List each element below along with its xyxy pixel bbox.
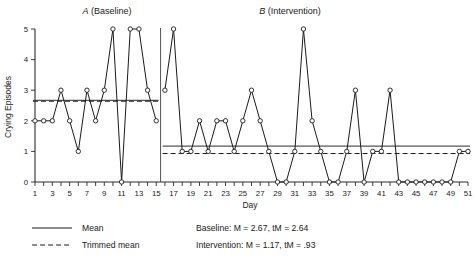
x-tick-label: 39 — [360, 189, 369, 198]
x-tick-label: 9 — [102, 189, 106, 198]
data-point — [414, 180, 418, 184]
x-tick-label: 47 — [429, 189, 438, 198]
series-line-b — [165, 29, 468, 182]
data-point — [397, 180, 401, 184]
data-point — [154, 119, 158, 123]
x-tick-label: 11 — [118, 189, 126, 198]
x-tick-label: 25 — [238, 189, 247, 198]
data-point — [371, 149, 375, 153]
x-axis-label: Day — [242, 200, 258, 210]
y-tick-label: 4 — [24, 55, 29, 64]
data-point — [180, 149, 184, 153]
x-tick-label: 17 — [169, 189, 178, 198]
data-point — [293, 149, 297, 153]
x-tick-label: 3 — [50, 189, 54, 198]
data-point — [128, 27, 132, 31]
data-point — [197, 119, 201, 123]
data-point — [189, 149, 193, 153]
y-tick-label: 2 — [24, 117, 28, 126]
data-point — [319, 149, 323, 153]
x-tick-label: 35 — [325, 189, 334, 198]
data-point — [431, 180, 435, 184]
legend-label-mean: Mean — [82, 223, 104, 233]
x-tick-label: 41 — [377, 189, 386, 198]
data-point — [440, 180, 444, 184]
x-tick-label: 7 — [85, 189, 89, 198]
data-point — [76, 149, 80, 153]
data-point — [163, 88, 167, 92]
data-point — [119, 180, 123, 184]
legend-label-trimmed-mean: Trimmed mean — [82, 240, 140, 250]
data-series — [33, 27, 470, 184]
data-point — [301, 27, 305, 31]
baseline-stats-text: Baseline: M = 2.67, tM = 2.64 — [196, 223, 308, 233]
data-point — [310, 119, 314, 123]
x-tick-label: 37 — [342, 189, 351, 198]
x-tick-label: 1 — [33, 189, 37, 198]
data-point — [258, 119, 262, 123]
data-point — [388, 88, 392, 92]
x-tick-label: 29 — [273, 189, 282, 198]
data-point — [171, 27, 175, 31]
data-point — [241, 119, 245, 123]
data-point — [33, 119, 37, 123]
data-point — [345, 149, 349, 153]
data-point — [59, 88, 63, 92]
y-axis-ticks: 012345 — [24, 25, 35, 187]
data-point — [145, 88, 149, 92]
data-point — [423, 180, 427, 184]
x-tick-label: 45 — [412, 189, 421, 198]
data-point — [41, 119, 45, 123]
data-point — [362, 180, 366, 184]
x-tick-label: 13 — [135, 189, 144, 198]
x-tick-label: 23 — [221, 189, 230, 198]
data-point — [85, 88, 89, 92]
y-tick-label: 5 — [24, 25, 29, 34]
x-tick-label: 15 — [152, 189, 161, 198]
y-tick-label: 3 — [24, 86, 28, 95]
data-point — [102, 88, 106, 92]
x-tick-label: 19 — [187, 189, 196, 198]
data-point — [353, 88, 357, 92]
data-point — [284, 180, 288, 184]
data-point — [111, 27, 115, 31]
data-point — [93, 119, 97, 123]
intervention-stats-text: Intervention: M = 1.17, tM = .93 — [196, 240, 316, 250]
data-point — [267, 149, 271, 153]
x-tick-label: 33 — [308, 189, 317, 198]
data-point — [50, 119, 54, 123]
data-point — [215, 119, 219, 123]
data-point — [457, 149, 461, 153]
crying-episodes-ab-design-chart: A (Baseline) B (Intervention) Crying Epi… — [0, 0, 475, 261]
data-point — [405, 180, 409, 184]
data-point — [67, 119, 71, 123]
data-point — [275, 180, 279, 184]
x-tick-label: 27 — [256, 189, 265, 198]
x-tick-label: 49 — [446, 189, 455, 198]
data-point — [206, 149, 210, 153]
data-point — [379, 149, 383, 153]
reference-lines — [33, 100, 470, 153]
data-point — [223, 119, 227, 123]
y-axis-label: Crying Episodes — [3, 76, 13, 138]
phase-title-baseline: A (Baseline) — [81, 6, 131, 16]
x-tick-label: 21 — [204, 189, 213, 198]
data-point — [232, 149, 236, 153]
phase-title-intervention: B (Intervention) — [259, 6, 321, 16]
legend: Mean Trimmed mean — [32, 223, 140, 250]
data-point — [466, 149, 470, 153]
data-point — [448, 180, 452, 184]
series-line-a — [35, 29, 156, 182]
statistics-annotations: Baseline: M = 2.67, tM = 2.64 Interventi… — [196, 223, 316, 250]
data-point — [327, 180, 331, 184]
data-point — [336, 180, 340, 184]
x-tick-label: 51 — [464, 189, 473, 198]
data-point — [249, 88, 253, 92]
data-point — [137, 27, 141, 31]
y-tick-label: 1 — [24, 147, 28, 156]
y-tick-label: 0 — [24, 178, 29, 187]
x-tick-label: 5 — [67, 189, 72, 198]
x-tick-label: 43 — [394, 189, 403, 198]
x-tick-label: 31 — [290, 189, 299, 198]
